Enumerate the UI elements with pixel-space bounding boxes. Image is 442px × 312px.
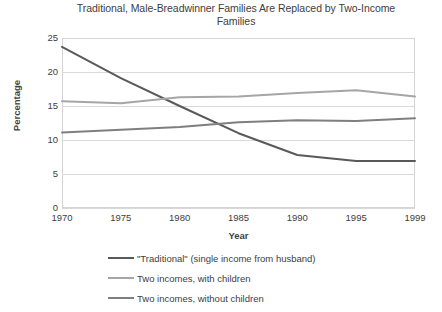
chart-title: Traditional, Male-Breadwinner Families A…	[58, 2, 414, 28]
y-tick-label: 20	[28, 66, 58, 77]
legend-label: Two incomes, without children	[137, 293, 264, 304]
legend-label: Two incomes, with children	[137, 273, 251, 284]
y-tick-label: 10	[28, 134, 58, 145]
legend-swatch-icon	[108, 257, 134, 260]
x-tick-label: 1970	[39, 212, 85, 223]
x-axis-title: Year	[62, 230, 415, 241]
x-tick-label: 1980	[157, 212, 203, 223]
legend-swatch-icon	[108, 277, 134, 280]
legend-item[interactable]: Two incomes, with children	[108, 268, 408, 288]
series-line	[62, 118, 415, 132]
x-tick-label: 1985	[216, 212, 262, 223]
y-tick-label: 5	[28, 168, 58, 179]
x-tick-label: 1995	[333, 212, 379, 223]
gridline	[62, 208, 415, 209]
legend-swatch-icon	[108, 297, 134, 300]
y-axis-title: Percentage	[11, 66, 22, 146]
line-chart-figure: Traditional, Male-Breadwinner Families A…	[0, 0, 442, 312]
x-tick-label: 1975	[98, 212, 144, 223]
y-tick-label: 25	[28, 32, 58, 43]
legend-item[interactable]: Two incomes, without children	[108, 288, 408, 308]
data-series-layer	[62, 38, 415, 208]
x-tick-label: 1990	[274, 212, 320, 223]
chart-legend: "Traditional" (single income from husban…	[108, 248, 408, 308]
y-tick-label: 15	[28, 100, 58, 111]
legend-item[interactable]: "Traditional" (single income from husban…	[108, 248, 408, 268]
legend-label: "Traditional" (single income from husban…	[137, 253, 316, 264]
series-line	[62, 90, 415, 103]
x-tick-label: 1999	[392, 212, 438, 223]
